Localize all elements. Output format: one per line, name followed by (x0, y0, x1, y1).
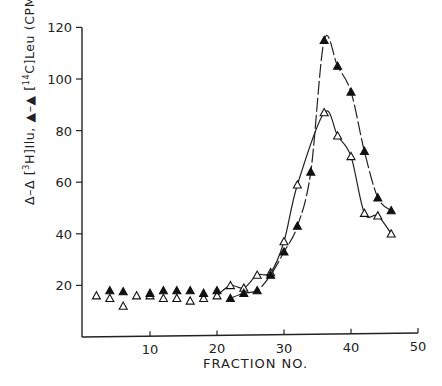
filled-triangle-icon (253, 287, 261, 294)
open-triangle-icon (119, 302, 127, 309)
data-markers (92, 36, 395, 309)
y-tick-label: 40 (55, 227, 72, 242)
open-triangle-icon (106, 294, 114, 301)
axes: 204060801001201020304050 (47, 20, 426, 357)
filled-triangle-icon (213, 287, 221, 294)
y-axis-label: Δ–Δ [3H]Ilu, ▲–▲ [14C]Leu (CPM) (22, 0, 37, 205)
chart-canvas: 204060801001201020304050 (0, 0, 442, 386)
filled-triangle-icon (320, 36, 328, 43)
filled-triangle-icon (119, 288, 127, 295)
open-triangle-icon (133, 292, 141, 299)
filled-triangle-icon (146, 289, 154, 296)
filled-triangle-icon (200, 289, 208, 296)
x-tick-label: 40 (343, 340, 360, 355)
filled-triangle-icon (307, 168, 315, 175)
y-tick-label: 60 (55, 175, 72, 190)
y-tick-label: 80 (55, 124, 72, 139)
open-triangle-icon (280, 238, 288, 245)
x-tick-label: 50 (410, 339, 427, 354)
y-tick-label: 120 (47, 20, 72, 35)
x-tick-label: 10 (142, 342, 159, 357)
open-triangle-icon (293, 181, 301, 188)
filled-triangle-icon (226, 294, 234, 301)
open-triangle-icon (347, 152, 355, 159)
open-triangle-icon (173, 294, 181, 301)
filled-triangle-icon (347, 88, 355, 95)
open-triangle-icon (186, 297, 194, 304)
x-tick-label: 30 (276, 341, 293, 356)
open-triangle-icon (387, 230, 395, 237)
filled-triangle-icon (293, 222, 301, 229)
filled-triangle-icon (106, 287, 114, 294)
filled-triangle-icon (186, 287, 194, 294)
open-series-marker: Δ–Δ (22, 180, 37, 205)
filled-triangle-icon (334, 62, 342, 69)
filled-triangle-icon (374, 194, 382, 201)
open-triangle-icon (92, 292, 100, 299)
filled-triangle-icon (387, 207, 395, 214)
filled-triangle-icon (159, 287, 167, 294)
x-axis-line (82, 333, 418, 337)
open-triangle-icon (334, 132, 342, 139)
open-triangle-icon (320, 109, 328, 116)
fitted-curves (217, 35, 391, 298)
open-triangle-icon (159, 294, 167, 301)
filled-triangle-icon (173, 287, 181, 294)
filled-triangle-icon (360, 147, 368, 154)
x-tick-label: 20 (209, 341, 226, 356)
y-tick-label: 20 (55, 278, 72, 293)
open-triangle-icon (360, 209, 368, 216)
filled-series-marker: ▲–▲ (22, 95, 37, 122)
y-tick-label: 100 (47, 72, 72, 87)
x-axis-label: FRACTION NO. (203, 356, 308, 371)
